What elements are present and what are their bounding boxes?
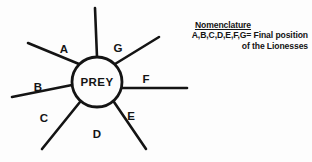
- label-a: A: [60, 43, 68, 55]
- prey-lionesses-diagram: PREY A B C D E F G Nomenclature A,B,C,D,…: [0, 0, 312, 162]
- legend-line-2: of the Lionesses: [150, 41, 308, 51]
- label-d: D: [93, 128, 101, 140]
- label-b: B: [34, 81, 42, 93]
- spoke-a: [28, 43, 79, 64]
- spoke-c: [42, 102, 80, 149]
- legend-title: Nomenclature: [150, 20, 308, 30]
- spoke-top-unlabeled: [95, 8, 97, 57]
- label-c: C: [40, 112, 48, 124]
- label-e: E: [127, 110, 135, 122]
- legend-line-1: A,B,C,D,E,F,G= Final position: [150, 30, 308, 40]
- prey-label: PREY: [81, 76, 114, 88]
- nomenclature-legend: Nomenclature A,B,C,D,E,F,G= Final positi…: [150, 20, 308, 51]
- label-g: G: [114, 42, 123, 54]
- label-f: F: [142, 73, 149, 85]
